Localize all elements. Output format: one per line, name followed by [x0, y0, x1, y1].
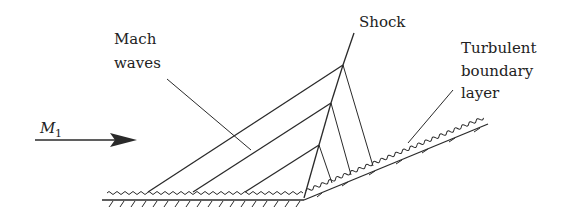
- boundary-layer-label-line3: layer: [461, 84, 500, 102]
- compression-corner-diagram: Mach waves Shock Turbulent boundary laye…: [0, 0, 579, 217]
- boundary-layer-edge-ramp: [305, 116, 484, 192]
- mach-waves-leader-line: [167, 79, 251, 150]
- mach-waves-label-line1: Mach: [114, 30, 157, 48]
- freestream-mach-subscript: 1: [55, 127, 62, 140]
- shock-label: Shock: [359, 13, 406, 31]
- freestream-mach-label: M: [39, 119, 56, 137]
- boundary-layer-label-line1: Turbulent: [461, 39, 536, 57]
- boundary-layer-label-line2: boundary: [461, 62, 534, 80]
- mach-waves-label-line2: waves: [114, 54, 161, 72]
- reflected-waves: [319, 65, 373, 183]
- boundary-layer-edge: [107, 192, 303, 195]
- mach-waves: [148, 65, 343, 192]
